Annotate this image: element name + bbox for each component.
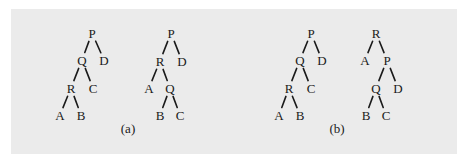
tree-edge [390, 68, 395, 80]
tree-edge [74, 96, 78, 107]
tree-edge [85, 41, 89, 52]
tree-node-q: Q [295, 53, 305, 68]
tree-node-d: D [393, 81, 402, 96]
tree-edge [174, 41, 179, 53]
tree-edge [314, 41, 319, 52]
tree-node-a: A [360, 53, 370, 68]
tree-node-b: B [362, 108, 371, 123]
tree-edge [282, 96, 286, 107]
captions-layer: (a)(b) [121, 121, 345, 136]
tree-node-d: D [99, 53, 108, 68]
tree-node-q: Q [165, 81, 175, 96]
tree-node-a: A [274, 108, 284, 123]
tree-node-p: P [167, 26, 174, 41]
tree-node-p: P [88, 26, 95, 41]
tree-node-r: R [67, 81, 76, 96]
tree-edge [163, 69, 167, 80]
tree-edge [379, 68, 384, 80]
tree-edge [368, 41, 373, 52]
tree-edge [303, 68, 308, 80]
tree-edge [74, 68, 79, 80]
tree-edge [163, 41, 168, 53]
tree-edge [379, 96, 383, 107]
tree-node-p: P [307, 26, 314, 41]
tree-node-c: C [382, 108, 391, 123]
tree-node-c: C [307, 81, 316, 96]
tree-node-d: D [177, 54, 186, 69]
tree-node-q: Q [77, 53, 87, 68]
tree-node-c: C [89, 81, 98, 96]
edges-layer [63, 41, 395, 107]
tree-edge [63, 96, 68, 107]
tree-node-r: R [372, 26, 381, 41]
tree-node-b: B [77, 108, 86, 123]
tree-edge [152, 69, 157, 80]
tree-edge [292, 96, 297, 107]
tree-edge [369, 96, 373, 107]
tree-node-r: R [156, 54, 165, 69]
tree-node-b: B [156, 108, 165, 123]
tree-diagram: PQDRCABPRDAQBCPQDRCABRAPQDBC (a)(b) [0, 0, 474, 163]
tree-edge [292, 68, 297, 80]
tree-node-a: A [55, 108, 65, 123]
nodes-layer: PQDRCABPRDAQBCPQDRCABRAPQDBC [55, 26, 402, 123]
tree-edge [379, 41, 384, 52]
tree-node-p: P [383, 53, 390, 68]
tree-node-d: D [317, 53, 326, 68]
panel-caption: (b) [329, 121, 344, 136]
tree-edge [96, 41, 101, 53]
tree-edge [303, 41, 308, 52]
tree-node-r: R [285, 81, 294, 96]
tree-node-b: B [296, 108, 305, 123]
tree-node-q: Q [371, 81, 381, 96]
tree-edge [173, 96, 177, 107]
tree-node-a: A [144, 81, 154, 96]
tree-node-c: C [176, 108, 185, 123]
tree-edge [85, 68, 90, 80]
tree-edge [163, 96, 167, 107]
panel-caption: (a) [121, 121, 135, 136]
